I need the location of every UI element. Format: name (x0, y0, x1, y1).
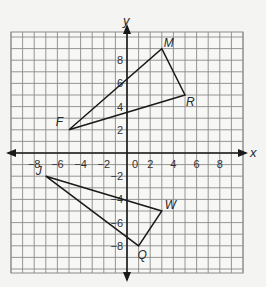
x-tick-label: 2 (147, 158, 153, 170)
x-tick-label: −6 (51, 158, 64, 170)
vertex-label-R: R (186, 95, 195, 109)
y-tick-label: 2 (117, 124, 123, 136)
x-tick-label: −4 (74, 158, 87, 170)
y-tick-label: −8 (110, 240, 123, 252)
vertex-label-W: W (165, 198, 178, 212)
y-tick-label: −2 (110, 170, 123, 182)
x-tick-label: 6 (194, 158, 200, 170)
vertex-label-J: J (35, 164, 43, 178)
y-axis-label: y (122, 13, 131, 28)
x-tick-label: 8 (217, 158, 223, 170)
x-axis-label: x (249, 145, 257, 160)
coordinate-plane: −8−6−4−2024688642−2−4−6−8 FMRJWQ x y (0, 0, 266, 287)
x-tick-label: −2 (98, 158, 111, 170)
x-tick-label: 0 (132, 158, 138, 170)
y-axis-arrow-down-icon (123, 272, 131, 282)
vertex-label-M: M (164, 36, 174, 50)
x-tick-label: 4 (170, 158, 176, 170)
vertex-label-F: F (56, 115, 64, 129)
vertex-label-Q: Q (138, 248, 147, 262)
y-tick-label: 4 (117, 101, 123, 113)
y-tick-label: 8 (117, 54, 123, 66)
